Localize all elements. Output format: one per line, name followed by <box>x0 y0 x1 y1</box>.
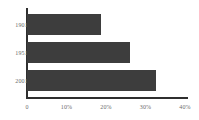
bar-1901 <box>27 14 101 35</box>
x-axis-tick-label-30: 30% <box>131 103 161 111</box>
x-axis-tick-label-40: 40% <box>170 103 199 111</box>
x-axis-tick-label-20: 20% <box>91 103 121 111</box>
y-axis-tick-label-2001: 2001 <box>4 77 28 85</box>
bar-chart: 1901 1951 2001 0 10% 20% 30% 40% <box>0 0 199 120</box>
y-axis-tick-label-1951: 1951 <box>4 49 28 57</box>
x-axis-line <box>26 97 188 99</box>
bar-1951 <box>27 42 130 63</box>
x-axis-tick-label-0: 0 <box>12 103 42 111</box>
plot-area: 1901 1951 2001 0 10% 20% 30% 40% <box>0 0 199 120</box>
y-axis-tick-label-1901: 1901 <box>4 21 28 29</box>
x-axis-tick-label-10: 10% <box>52 103 82 111</box>
bar-2001 <box>27 70 156 91</box>
